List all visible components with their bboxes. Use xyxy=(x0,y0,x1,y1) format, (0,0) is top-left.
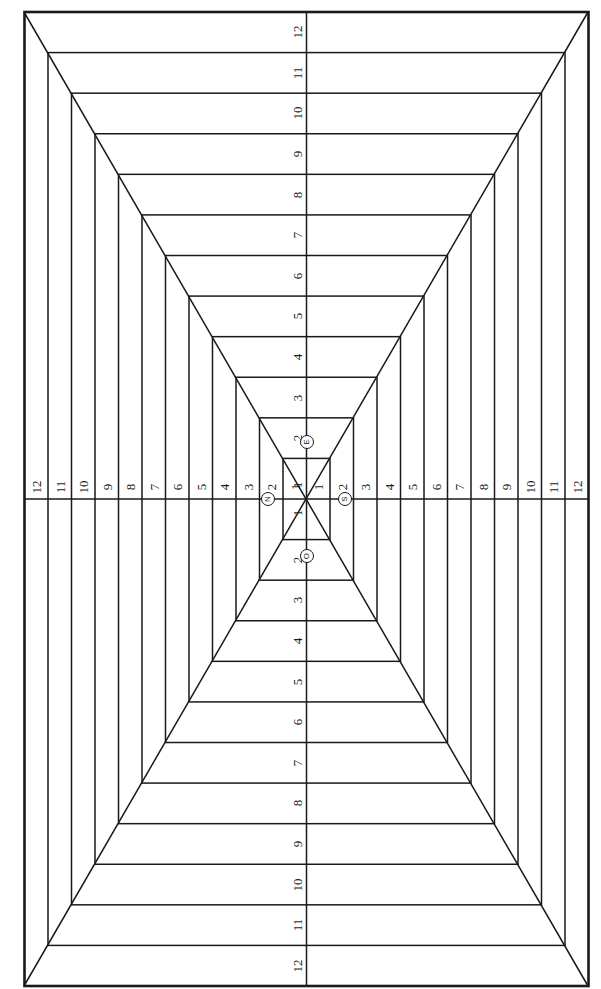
ring-label-bottom: 8 xyxy=(290,800,303,807)
ring-label-bottom: 9 xyxy=(290,841,303,848)
ring-label-left: 11 xyxy=(53,481,66,494)
ring-label-left: 12 xyxy=(30,481,43,494)
nested-rectangles-diagram: 1111222233334444555566667777888899991010… xyxy=(0,0,601,989)
ring-label-right: 4 xyxy=(382,484,395,491)
ring-label-bottom: 10 xyxy=(290,878,303,891)
ring-label-bottom: 6 xyxy=(290,719,303,726)
ring-label-top: 3 xyxy=(290,394,303,401)
east-marker-icon: E xyxy=(300,435,314,449)
ring-label-right: 10 xyxy=(523,481,536,494)
ring-label-right: 7 xyxy=(453,484,466,491)
ring-label-bottom: 12 xyxy=(290,959,303,972)
ring-label-bottom: 5 xyxy=(290,678,303,685)
ring-label-top: 12 xyxy=(290,26,303,39)
ring-label-left: 6 xyxy=(171,484,184,491)
ring-label-top: 10 xyxy=(290,107,303,120)
ring-label-bottom: 1 xyxy=(290,510,303,517)
ring-label-bottom: 7 xyxy=(290,760,303,767)
ring-label-left: 3 xyxy=(241,484,254,491)
ring-label-left: 2 xyxy=(265,484,278,491)
ring-label-bottom: 11 xyxy=(290,919,303,932)
ring-label-top: 11 xyxy=(290,67,303,80)
ring-label-left: 7 xyxy=(147,484,160,491)
ring-label-top: 4 xyxy=(290,354,303,361)
ring-label-right: 5 xyxy=(406,484,419,491)
ring-label-right: 1 xyxy=(312,484,325,491)
ring-label-left: 5 xyxy=(194,484,207,491)
ring-label-bottom: 3 xyxy=(290,597,303,604)
ring-label-top: 1 xyxy=(290,481,303,488)
north-marker-icon: N xyxy=(261,492,275,506)
ring-label-right: 11 xyxy=(547,481,560,494)
ring-label-top: 6 xyxy=(290,273,303,280)
ring-label-top: 8 xyxy=(290,191,303,198)
ring-label-right: 2 xyxy=(335,484,348,491)
ring-label-top: 5 xyxy=(290,313,303,320)
ring-label-left: 9 xyxy=(100,484,113,491)
ring-label-bottom: 4 xyxy=(290,638,303,645)
ring-label-right: 6 xyxy=(429,484,442,491)
ring-label-right: 9 xyxy=(500,484,513,491)
west-marker-icon: O xyxy=(300,549,314,563)
ring-label-right: 3 xyxy=(359,484,372,491)
ring-label-top: 9 xyxy=(290,151,303,158)
ring-label-left: 4 xyxy=(218,484,231,491)
ring-label-left: 10 xyxy=(77,481,90,494)
ring-label-left: 8 xyxy=(124,484,137,491)
ring-label-right: 8 xyxy=(476,484,489,491)
ring-label-top: 7 xyxy=(290,232,303,239)
ring-label-right: 12 xyxy=(570,481,583,494)
